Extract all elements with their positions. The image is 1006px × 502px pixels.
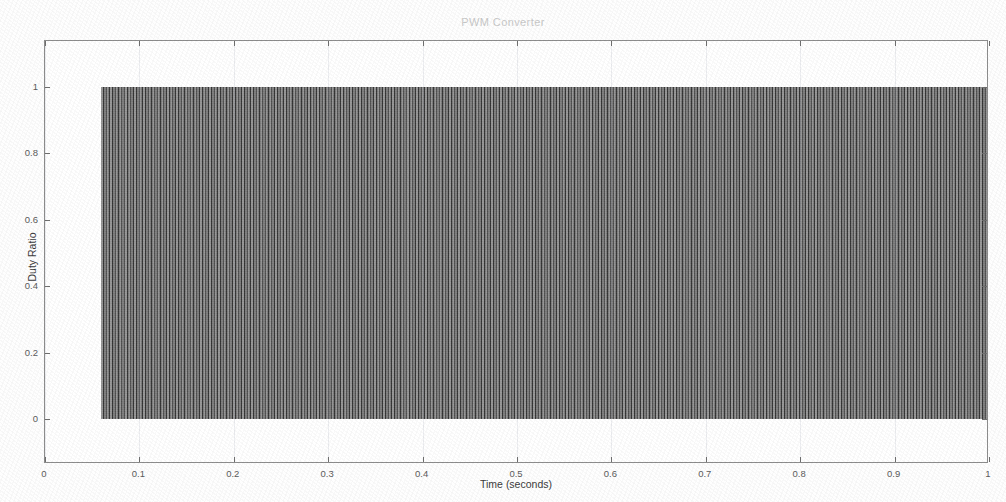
y-tick-mark-right <box>982 87 987 88</box>
x-tick-label: 1 <box>985 468 990 479</box>
y-tick-mark-right <box>982 220 987 221</box>
y-tick-mark <box>45 87 50 88</box>
x-tick-mark-top <box>706 41 707 46</box>
x-tick-label: 0.7 <box>698 468 711 479</box>
x-tick-label: 0.3 <box>321 468 334 479</box>
x-tick-label: 0.6 <box>604 468 617 479</box>
x-tick-mark-top <box>989 41 990 46</box>
x-tick-mark <box>706 457 707 462</box>
x-tick-mark-top <box>328 41 329 46</box>
y-tick-mark-right <box>982 286 987 287</box>
x-tick-mark <box>139 457 140 462</box>
y-tick-label: 0.6 <box>0 213 38 224</box>
y-tick-label: 0.4 <box>0 280 38 291</box>
x-tick-mark <box>800 457 801 462</box>
x-gridline <box>139 41 140 462</box>
x-tick-mark-top <box>800 41 801 46</box>
x-tick-mark-top <box>139 41 140 46</box>
x-tick-label: 0.9 <box>887 468 900 479</box>
x-tick-label: 0.8 <box>793 468 806 479</box>
y-tick-label: 0 <box>0 413 38 424</box>
x-tick-mark <box>895 457 896 462</box>
x-gridline <box>611 41 612 462</box>
y-tick-mark <box>45 286 50 287</box>
x-tick-label: 0.1 <box>132 468 145 479</box>
y-tick-mark <box>45 353 50 354</box>
x-tick-mark-top <box>423 41 424 46</box>
y-tick-mark <box>45 153 50 154</box>
x-tick-mark <box>611 457 612 462</box>
x-tick-mark <box>423 457 424 462</box>
x-gridline <box>45 41 46 462</box>
x-tick-mark <box>517 457 518 462</box>
x-tick-mark-top <box>611 41 612 46</box>
x-gridline <box>517 41 518 462</box>
x-tick-mark-top <box>234 41 235 46</box>
plot-area <box>45 41 987 462</box>
x-gridline <box>800 41 801 462</box>
x-tick-label: 0.4 <box>415 468 428 479</box>
y-tick-mark <box>45 220 50 221</box>
x-tick-mark-top <box>517 41 518 46</box>
y-tick-mark-right <box>982 153 987 154</box>
x-axis-label: Time (seconds) <box>44 478 988 490</box>
y-tick-label: 0.2 <box>0 346 38 357</box>
x-tick-mark <box>989 457 990 462</box>
plot-axes <box>44 40 988 463</box>
y-tick-mark-right <box>982 353 987 354</box>
y-tick-label: 1 <box>0 81 38 92</box>
y-tick-mark-right <box>982 419 987 420</box>
chart-title: PWM Converter <box>0 16 1006 28</box>
x-gridline <box>328 41 329 462</box>
x-tick-mark <box>45 457 46 462</box>
figure-canvas: PWM Converter Time (seconds) Duty Ratio … <box>0 0 1006 502</box>
x-tick-label: 0 <box>41 468 46 479</box>
x-tick-mark-top <box>895 41 896 46</box>
x-tick-mark-top <box>45 41 46 46</box>
x-gridline <box>423 41 424 462</box>
x-tick-mark <box>234 457 235 462</box>
x-gridline <box>706 41 707 462</box>
y-tick-mark <box>45 419 50 420</box>
x-gridline <box>234 41 235 462</box>
x-gridline <box>895 41 896 462</box>
y-tick-label: 0.8 <box>0 147 38 158</box>
x-tick-label: 0.2 <box>226 468 239 479</box>
x-tick-mark <box>328 457 329 462</box>
x-tick-label: 0.5 <box>509 468 522 479</box>
